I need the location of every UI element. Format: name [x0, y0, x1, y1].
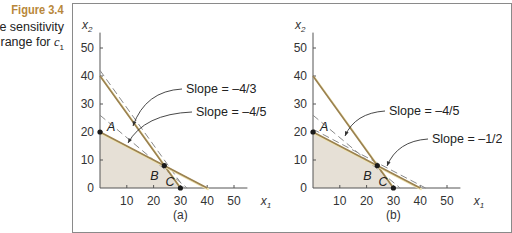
y-tick-label: 10 [294, 153, 308, 167]
y-tick-label: 50 [294, 41, 308, 55]
x-tick-label: 10 [120, 194, 134, 208]
y-tick-label: 0 [87, 181, 94, 195]
x-tick-label: 40 [201, 194, 215, 208]
arrow-head-icon [128, 138, 132, 143]
y-tick-label: 0 [300, 181, 307, 195]
x-tick-label: 20 [360, 194, 374, 208]
corner-point-B [375, 163, 380, 168]
slope-annotation: Slope = –4/5 [389, 104, 460, 118]
corner-point-label: B [363, 169, 371, 183]
corner-point-label: A [106, 120, 115, 134]
panel-label: (b) [386, 208, 401, 222]
y-tick-label: 30 [294, 97, 308, 111]
annotation-arrow [387, 139, 428, 166]
chart-panel-a: 010203040501020304050x1x2ABCSlope = –4/3… [81, 18, 272, 222]
x-tick-label: 50 [440, 194, 454, 208]
panel-label: (a) [173, 208, 188, 222]
y-tick-label: 20 [294, 125, 308, 139]
corner-point-label: B [150, 169, 158, 183]
y-tick-label: 10 [81, 153, 95, 167]
x-tick-label: 30 [174, 194, 188, 208]
x-axis-label: x1 [260, 194, 271, 210]
corner-point-label: C [378, 175, 388, 189]
corner-point-C [178, 185, 183, 190]
corner-point-B [162, 163, 167, 168]
x-axis-label: x1 [473, 194, 484, 210]
y-axis-label: x2 [81, 18, 93, 34]
corner-point-C [391, 185, 396, 190]
y-tick-label: 40 [294, 69, 308, 83]
y-tick-label: 30 [81, 97, 95, 111]
annotation-arrow [133, 89, 182, 126]
corner-point-label: A [319, 120, 328, 134]
slope-annotation: Slope = –4/3 [186, 82, 257, 96]
annotation-arrow [345, 111, 385, 136]
slope-annotation: Slope = –1/2 [432, 132, 502, 146]
y-tick-label: 40 [81, 69, 95, 83]
slope-annotation: Slope = –4/5 [196, 105, 267, 119]
x-tick-label: 10 [333, 194, 347, 208]
chart-panel-b: 010203040501020304050x1x2ABCSlope = –4/5… [294, 18, 502, 222]
y-tick-label: 20 [81, 125, 95, 139]
y-tick-label: 50 [81, 41, 95, 55]
corner-point-A [310, 129, 315, 134]
corner-point-label: C [165, 175, 175, 189]
arrow-head-icon [387, 161, 391, 166]
x-tick-label: 20 [147, 194, 161, 208]
corner-point-A [97, 129, 102, 134]
x-tick-label: 30 [387, 194, 401, 208]
x-tick-label: 40 [414, 194, 428, 208]
y-axis-label: x2 [294, 18, 306, 34]
x-tick-label: 50 [227, 194, 241, 208]
